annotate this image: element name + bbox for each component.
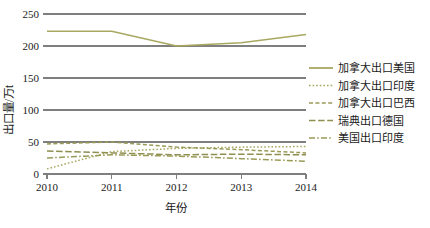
series-line-2 (47, 146, 306, 168)
y-tick-label: 100 (23, 104, 40, 116)
chart-container: 050100150200250 20102011201220132014 出口量… (0, 0, 430, 228)
x-tick-label: 2014 (295, 181, 318, 193)
y-tick-label: 50 (28, 136, 40, 148)
y-tick-label: 150 (23, 72, 40, 84)
x-axis-title: 年份 (165, 201, 188, 214)
legend-label-5: 美国出口印度 (338, 131, 404, 144)
series-line-1 (47, 31, 306, 46)
y-tick-label: 250 (23, 8, 40, 20)
y-axis-tick-labels: 050100150200250 (23, 8, 40, 180)
chart-legend: 加拿大出口美国加拿大出口印度加拿大出口巴西瑞典出口德国美国出口印度 (309, 61, 415, 144)
line-chart: 050100150200250 20102011201220132014 出口量… (0, 0, 430, 228)
series-line-3 (47, 142, 306, 153)
y-tick-label: 0 (34, 168, 40, 180)
x-tick-label: 2013 (230, 181, 253, 193)
y-tick-label: 200 (23, 40, 40, 52)
x-axis-tick-labels: 20102011201220132014 (36, 181, 318, 193)
legend-label-4: 瑞典出口德国 (338, 114, 404, 127)
legend-label-2: 加拿大出口印度 (338, 79, 415, 92)
x-tick-label: 2010 (36, 181, 59, 193)
x-tick-label: 2012 (166, 181, 188, 193)
series-lines (47, 31, 306, 169)
gridlines (47, 14, 306, 142)
legend-label-3: 加拿大出口巴西 (338, 96, 415, 109)
x-tick-label: 2011 (101, 181, 123, 193)
legend-label-1: 加拿大出口美国 (338, 61, 415, 74)
y-axis-title: 出口量/万t (2, 84, 15, 135)
